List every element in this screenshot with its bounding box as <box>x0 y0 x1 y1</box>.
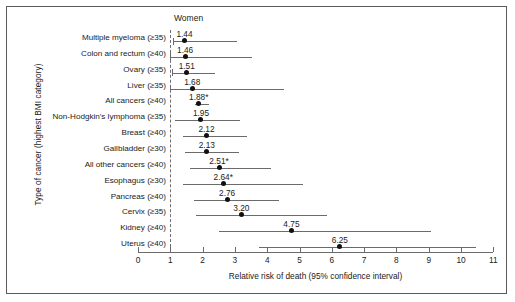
x-tick-mark <box>364 247 365 252</box>
forest-row: Pancreas (≥40)2.76 <box>0 189 515 204</box>
point-value-label: 1.95 <box>193 108 209 118</box>
x-tick-mark <box>461 247 462 252</box>
confidence-interval-cap <box>170 53 171 60</box>
confidence-interval-line <box>219 231 431 232</box>
forest-row: Breast (≥40)2.12 <box>0 125 515 140</box>
row-category-label: Pancreas (≥40) <box>0 192 166 201</box>
x-tick-label: 4 <box>265 255 270 265</box>
confidence-interval-cap <box>173 38 174 45</box>
point-value-label: 4.75 <box>283 219 299 229</box>
row-category-label: Esophagus (≥30) <box>0 176 166 185</box>
x-tick-mark <box>396 247 397 252</box>
confidence-interval-line <box>259 247 476 248</box>
confidence-interval-line <box>172 73 215 74</box>
forest-row: Non-Hodgkin's lymphoma (≥35)1.95 <box>0 109 515 124</box>
confidence-interval-line <box>196 215 326 216</box>
confidence-interval-cap <box>172 69 173 76</box>
x-tick-label: 6 <box>329 255 334 265</box>
forest-row: Kidney (≥40)4.75 <box>0 220 515 235</box>
row-category-label: All other cancers (≥40) <box>0 160 166 169</box>
x-tick-mark <box>493 247 494 252</box>
x-tick-mark <box>429 247 430 252</box>
point-value-label: 1.46 <box>177 45 193 55</box>
x-tick-label: 2 <box>200 255 205 265</box>
forest-plot-figure: Type of cancer (highest BMI category) Wo… <box>0 0 515 302</box>
x-tick-mark <box>300 247 301 252</box>
row-category-label: All cancers (≥40) <box>0 96 166 105</box>
point-value-label: 2.76 <box>219 188 235 198</box>
point-value-label: 1.68 <box>184 77 200 87</box>
point-value-label: 6.25 <box>332 235 348 245</box>
point-value-label: 2.13 <box>199 140 215 150</box>
forest-row: Ovary (≥35)1.51 <box>0 62 515 77</box>
forest-row: Gallbladder (≥30)2.13 <box>0 141 515 156</box>
x-axis-line <box>138 252 493 253</box>
confidence-interval-line <box>170 57 253 58</box>
confidence-interval-line <box>183 184 304 185</box>
x-tick-label: 10 <box>456 255 465 265</box>
row-category-label: Cervix (≥35) <box>0 207 166 216</box>
x-tick-label: 8 <box>394 255 399 265</box>
confidence-interval-line <box>170 89 284 90</box>
point-value-label: 3.20 <box>233 203 249 213</box>
point-value-label: 2.51* <box>209 156 228 166</box>
x-tick-label: 5 <box>297 255 302 265</box>
row-category-label: Colon and rectum (≥40) <box>0 49 166 58</box>
row-category-label: Uterus (≥40) <box>0 239 166 248</box>
confidence-interval-line <box>190 168 271 169</box>
confidence-interval-line <box>194 200 279 201</box>
x-tick-label: 7 <box>362 255 367 265</box>
plot-area: Type of cancer (highest BMI category) Wo… <box>0 0 515 302</box>
row-category-label: Ovary (≥35) <box>0 65 166 74</box>
confidence-interval-line <box>183 136 248 137</box>
row-category-label: Gallbladder (≥30) <box>0 144 166 153</box>
point-value-label: 2.12 <box>198 124 214 134</box>
confidence-interval-line <box>185 152 239 153</box>
x-tick-label: 0 <box>136 255 141 265</box>
x-axis-title: Relative risk of death (95% confidence i… <box>138 271 493 281</box>
x-tick-mark <box>138 247 139 252</box>
x-tick-label: 3 <box>233 255 238 265</box>
forest-row: All other cancers (≥40)2.51* <box>0 157 515 172</box>
confidence-interval-cap <box>170 85 171 92</box>
x-tick-label: 11 <box>489 255 498 265</box>
x-tick-mark <box>267 247 268 252</box>
x-tick-label: 9 <box>426 255 431 265</box>
forest-row: Cervix (≥35)3.20 <box>0 204 515 219</box>
x-tick-mark <box>332 247 333 252</box>
x-tick-mark <box>235 247 236 252</box>
x-tick-label: 1 <box>168 255 173 265</box>
forest-row: Colon and rectum (≥40)1.46 <box>0 46 515 61</box>
series-column-header: Women <box>174 13 203 23</box>
forest-row: Esophagus (≥30)2.64* <box>0 173 515 188</box>
forest-row: All cancers (≥40)1.88* <box>0 93 515 108</box>
row-category-label: Liver (≥35) <box>0 81 166 90</box>
point-value-label: 1.88* <box>189 92 208 102</box>
forest-row: Uterus (≥40)6.25 <box>0 236 515 251</box>
forest-row: Multiple myeloma (≥35)1.44 <box>0 30 515 45</box>
row-category-label: Non-Hodgkin's lymphoma (≥35) <box>0 112 166 121</box>
row-category-label: Breast (≥40) <box>0 128 166 137</box>
point-value-label: 1.51 <box>179 61 195 71</box>
point-value-label: 2.64* <box>214 172 233 182</box>
row-category-label: Kidney (≥40) <box>0 223 166 232</box>
point-value-label: 1.44 <box>176 29 192 39</box>
x-tick-mark <box>203 247 204 252</box>
confidence-interval-line <box>175 120 240 121</box>
forest-row: Liver (≥35)1.68 <box>0 78 515 93</box>
x-tick-mark <box>170 247 171 252</box>
row-category-label: Multiple myeloma (≥35) <box>0 33 166 42</box>
